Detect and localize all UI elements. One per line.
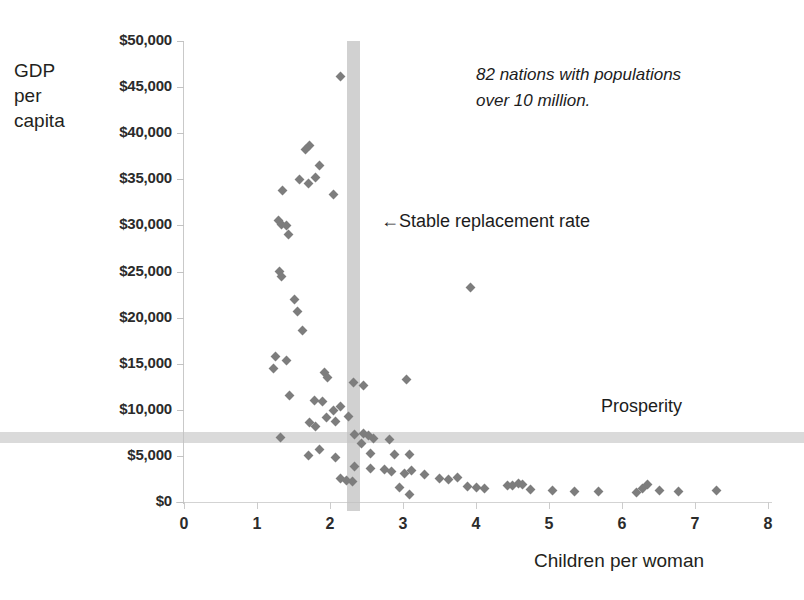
data-point [369,433,379,443]
data-point [310,173,320,183]
data-point [318,397,328,407]
y-tick-mark [177,364,184,365]
stable-replacement-rate-label: ←Stable replacement rate [381,211,590,232]
data-point [293,306,303,316]
x-axis-line [176,502,772,503]
x-tick-label: 6 [602,515,642,533]
x-tick-mark [403,502,404,509]
data-point [402,374,412,384]
x-tick-mark [549,502,550,509]
y-tick-mark [177,410,184,411]
y-tick-mark [177,133,184,134]
data-point [329,189,339,199]
data-point [303,179,313,189]
data-point [281,356,291,366]
data-point [389,449,399,459]
data-point [349,430,359,440]
x-tick-label: 0 [164,515,204,533]
y-tick-label: $10,000 [68,400,172,417]
data-point [284,390,294,400]
x-tick-label: 2 [310,515,350,533]
y-tick-label: $20,000 [68,308,172,325]
data-point [344,411,354,421]
data-point [290,294,300,304]
y-tick-label: $50,000 [68,31,172,48]
y-tick-mark [177,179,184,180]
data-point [548,486,558,496]
data-point [366,464,376,474]
data-point [405,490,415,500]
x-axis-title: Children per woman [534,550,704,572]
x-tick-label: 7 [675,515,715,533]
data-point [405,450,415,460]
data-point [526,484,536,494]
data-point [278,185,288,195]
data-point [655,486,665,496]
data-point [452,472,462,482]
x-tick-label: 5 [529,515,569,533]
data-point [674,486,684,496]
x-tick-mark [622,502,623,509]
data-point [420,469,430,479]
x-tick-label: 8 [748,515,788,533]
x-tick-mark [257,502,258,509]
x-tick-mark [330,502,331,509]
y-tick-label: $25,000 [68,262,172,279]
sample-note-annotation: 82 nations with populations over 10 mill… [476,62,776,114]
data-point [435,473,445,483]
data-point [331,453,341,463]
data-point [349,462,359,472]
y-tick-mark [177,502,184,503]
prosperity-label: Prosperity [601,396,682,417]
data-point [275,433,285,443]
x-tick-label: 4 [456,515,496,533]
x-tick-mark [184,502,185,509]
data-point [348,477,358,487]
data-point [315,161,325,171]
data-point [465,282,475,292]
data-point [356,439,366,449]
data-point [394,482,404,492]
x-tick-mark [695,502,696,509]
y-tick-mark [177,225,184,226]
data-point [570,486,580,496]
y-tick-label: $5,000 [68,446,172,463]
x-tick-label: 3 [383,515,423,533]
y-tick-mark [177,272,184,273]
y-tick-label: $35,000 [68,169,172,186]
y-tick-label: $30,000 [68,215,172,232]
y-tick-mark [177,318,184,319]
data-point [348,377,358,387]
data-point [365,448,375,458]
data-point [359,381,369,391]
y-tick-mark [177,87,184,88]
chart-canvas: GDP per capita $0$5,000$10,000$15,000$20… [0,0,804,600]
y-tick-mark [177,41,184,42]
x-tick-mark [476,502,477,509]
data-point [314,444,324,454]
y-tick-label: $0 [68,492,172,509]
data-point [331,417,341,427]
y-axis-ticks: $0$5,000$10,000$15,000$20,000$25,000$30,… [62,0,172,600]
y-tick-label: $45,000 [68,77,172,94]
data-point [335,71,345,81]
data-point [303,451,313,461]
data-point [271,351,281,361]
y-tick-label: $40,000 [68,123,172,140]
data-point [385,434,395,444]
data-point [297,326,307,336]
data-point [480,483,490,493]
x-tick-mark [768,502,769,509]
data-point [594,487,604,497]
x-tick-label: 1 [237,515,277,533]
data-point [712,486,722,496]
data-point [283,230,293,240]
y-tick-mark [177,456,184,457]
data-point [269,363,279,373]
y-tick-label: $15,000 [68,354,172,371]
